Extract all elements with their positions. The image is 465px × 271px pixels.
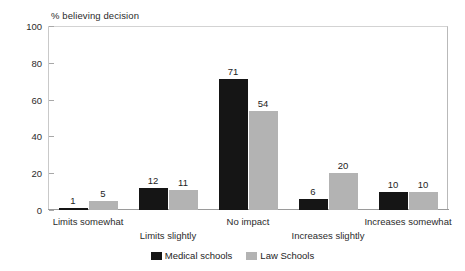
x-axis-category-label: Increases somewhat bbox=[364, 216, 451, 227]
legend-label: Law Schools bbox=[260, 250, 314, 261]
bar-value-label: 10 bbox=[418, 179, 429, 190]
y-axis-tick bbox=[49, 210, 54, 211]
bars-layer: 15121171546201010 bbox=[48, 26, 448, 210]
y-axis-tick-label: 100 bbox=[16, 21, 42, 32]
legend-label: Medical schools bbox=[165, 250, 233, 261]
bar-value-label: 1 bbox=[70, 195, 75, 206]
y-axis-tick-label: 0 bbox=[16, 205, 42, 216]
bar-medical bbox=[139, 188, 168, 210]
y-axis-tick-label: 80 bbox=[16, 57, 42, 68]
x-axis-category-label: Limits somewhat bbox=[53, 216, 124, 227]
bar-law bbox=[329, 173, 358, 210]
chart-axis-title: % believing decision bbox=[51, 10, 139, 21]
legend-swatch-icon bbox=[246, 252, 257, 260]
chart-legend: Medical schoolsLaw Schools bbox=[0, 250, 465, 261]
y-axis-tick-label: 60 bbox=[16, 94, 42, 105]
bar-law bbox=[409, 192, 438, 210]
legend-item[interactable]: Law Schools bbox=[246, 250, 314, 261]
bar-value-label: 20 bbox=[338, 160, 349, 171]
bar-value-label: 5 bbox=[100, 188, 105, 199]
bar-value-label: 71 bbox=[228, 66, 239, 77]
bar-value-label: 11 bbox=[178, 177, 188, 188]
y-axis-tick-label: 40 bbox=[16, 131, 42, 142]
legend-swatch-icon bbox=[151, 252, 162, 260]
x-axis-category-label: Increases slightly bbox=[292, 230, 365, 241]
legend-item[interactable]: Medical schools bbox=[151, 250, 233, 261]
bar-medical bbox=[219, 79, 248, 210]
bar-value-label: 6 bbox=[310, 186, 315, 197]
bar-value-label: 10 bbox=[388, 179, 399, 190]
x-axis-category-label: No impact bbox=[227, 216, 270, 227]
bar-medical bbox=[379, 192, 408, 210]
x-axis-category-label: Limits slightly bbox=[140, 230, 197, 241]
bar-law bbox=[249, 111, 278, 210]
bar-medical bbox=[299, 199, 328, 210]
bar-medical bbox=[59, 208, 88, 210]
bar-value-label: 12 bbox=[148, 175, 159, 186]
bar-value-label: 54 bbox=[258, 98, 269, 109]
bar-chart: % believing decision 020406080100 151211… bbox=[0, 0, 465, 271]
y-axis-tick-label: 20 bbox=[16, 168, 42, 179]
y-axis-labels: 020406080100 bbox=[14, 0, 42, 271]
bar-law bbox=[89, 201, 118, 210]
bar-law bbox=[169, 190, 198, 210]
